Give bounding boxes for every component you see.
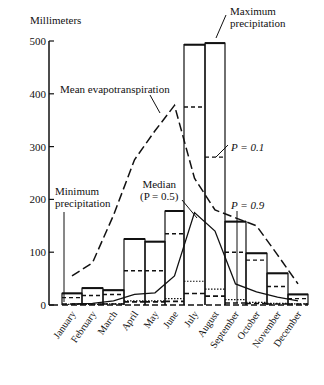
x-tick-label: May [141,309,161,330]
bar-july [184,45,205,305]
y-tick-label: 200 [30,193,47,205]
median-annotation: Median (P = 0.5) [140,178,179,202]
min-annotation-line2: precipitation [55,197,111,209]
y-tick-label: 400 [30,88,47,100]
x-tick-label: June [161,308,181,330]
p01-leader [216,145,228,157]
y-axis-label: Millimeters [30,14,81,26]
max-leader [216,15,226,38]
bar-june [165,211,184,305]
y-tick-label: 100 [30,246,47,258]
y-tick-label: 0 [41,299,47,311]
bar-august [205,43,225,305]
min-annotation: Minimum precipitation [55,185,111,209]
max-annotation-line2: precipitation [230,17,286,29]
p09-annotation: P = 0.9 [231,199,264,211]
evap-leader [150,95,160,113]
bar-may [145,242,165,305]
min-annotation-line1: Minimum [55,185,111,197]
evap-annotation: Mean evapotranspiration [60,83,170,95]
y-tick-label: 500 [30,35,47,47]
y-tick-label: 300 [30,141,47,153]
bar-march [103,290,124,305]
p01-annotation: P = 0.1 [231,141,264,153]
x-tick-label: April [119,309,140,333]
bar-november [267,273,288,305]
median-annotation-line2: (P = 0.5) [140,190,179,202]
precipitation-chart: 0100200300400500JanuaryFebruaryMarchApri… [0,0,324,385]
max-annotation-line1: Maximum [230,5,286,17]
bar-october [246,253,267,305]
median-annotation-line1: Median [140,178,179,190]
max-annotation: Maximum precipitation [230,5,286,29]
x-tick-label: July [182,309,201,329]
x-tick-label: March [95,309,119,337]
